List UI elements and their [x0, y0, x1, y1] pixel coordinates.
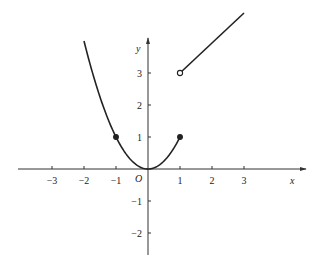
x-tick-label: 2	[210, 175, 215, 186]
x-axis-label: x	[289, 175, 295, 186]
y-tick-label: −1	[131, 196, 142, 207]
x-tick-label: −1	[111, 175, 122, 186]
y-tick-label: 3	[137, 68, 142, 79]
y-tick-label: 1	[137, 132, 142, 143]
y-axis-label: y	[135, 43, 141, 54]
filled-point-marker	[114, 135, 119, 140]
linear-segment	[180, 13, 244, 73]
y-tick-label: 2	[137, 100, 142, 111]
open-point-marker	[177, 70, 182, 75]
function-graph: −3−2−1123 −2−1123 x y O	[0, 0, 323, 268]
x-tick-label: 1	[178, 175, 183, 186]
origin-label: O	[135, 173, 142, 184]
filled-point-marker	[178, 135, 183, 140]
y-tick-label: −2	[131, 228, 142, 239]
parabola-curve	[84, 41, 180, 169]
x-tick-label: −3	[47, 175, 58, 186]
x-tick-label: −2	[79, 175, 90, 186]
x-tick-label: 3	[242, 175, 247, 186]
